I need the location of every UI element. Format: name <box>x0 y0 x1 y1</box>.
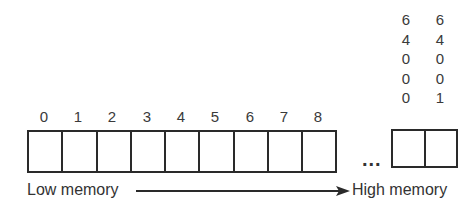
cell-index-1: 1 <box>61 108 95 125</box>
memory-cell-4 <box>166 132 200 171</box>
digit: 0 <box>395 88 417 108</box>
digit: 0 <box>395 69 417 89</box>
memory-cell-5 <box>200 132 234 171</box>
cell-index-8: 8 <box>301 108 335 125</box>
low-memory-label: Low memory <box>27 181 119 199</box>
digit: 1 <box>429 88 451 108</box>
digit: 0 <box>429 49 451 69</box>
memory-cell-7 <box>269 132 303 171</box>
digit: 6 <box>395 10 417 30</box>
digit: 0 <box>429 69 451 89</box>
memory-cell-6 <box>235 132 269 171</box>
memory-cell-64000 <box>393 131 426 166</box>
cell-index-3: 3 <box>130 108 164 125</box>
cell-index-4: 4 <box>164 108 198 125</box>
ellipsis: ... <box>362 148 382 171</box>
digit: 4 <box>429 30 451 50</box>
memory-cell-8 <box>303 132 335 171</box>
cell-index-5: 5 <box>198 108 232 125</box>
memory-cell-2 <box>98 132 132 171</box>
high-memory-label: High memory <box>352 181 447 199</box>
arrow-right-icon <box>134 183 354 199</box>
cell-index-7: 7 <box>267 108 301 125</box>
memory-cell-64001 <box>426 131 456 166</box>
cell-index-0: 0 <box>27 108 61 125</box>
cell-index-2: 2 <box>95 108 129 125</box>
digit: 4 <box>395 30 417 50</box>
high-memory-cells <box>391 129 458 168</box>
high-address-label-64001: 6 4 0 0 1 <box>429 10 451 108</box>
low-memory-cells <box>27 130 337 173</box>
memory-cell-3 <box>132 132 166 171</box>
digit: 6 <box>429 10 451 30</box>
memory-cell-1 <box>63 132 97 171</box>
digit: 0 <box>395 49 417 69</box>
high-address-label-64000: 6 4 0 0 0 <box>395 10 417 108</box>
cell-index-6: 6 <box>233 108 267 125</box>
memory-cell-0 <box>29 132 63 171</box>
